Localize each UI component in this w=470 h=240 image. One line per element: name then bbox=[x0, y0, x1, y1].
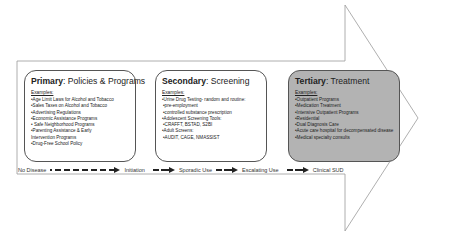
primary-examples-list: •Age Limit Laws for Alcohol and Tobacco … bbox=[31, 97, 129, 147]
secondary-prevention-box: Secondary: Screening Examples: •Urine Dr… bbox=[155, 70, 267, 162]
stage-sporadic-use: Sporadic Use bbox=[179, 167, 212, 173]
list-item: •Parenting Assistance & Early Interventi… bbox=[31, 128, 101, 141]
stage-initiation: Initiation bbox=[124, 167, 145, 173]
secondary-examples-list: •Urine Drug Testing- random and routine:… bbox=[162, 97, 260, 141]
secondary-title: Secondary: Screening bbox=[162, 76, 260, 87]
list-item: •AUDIT, CAGE, NMASSIST bbox=[162, 135, 260, 141]
disease-stage-timeline: No Disease Initiation Sporadic Use Escal… bbox=[18, 164, 344, 176]
dashed-arrow-icon bbox=[287, 167, 309, 173]
list-item: •Acute care hospital for decompensated d… bbox=[295, 128, 395, 134]
dashed-arrow-icon bbox=[50, 167, 120, 173]
stage-clinical-sud: Clinical SUD bbox=[313, 167, 344, 173]
primary-title: Primary: Policies & Programs bbox=[31, 76, 129, 87]
list-item: •Medical specialty consults bbox=[295, 135, 393, 141]
tertiary-examples-list: •Outpatient Programs •Medication Treatme… bbox=[295, 97, 393, 141]
tertiary-prevention-box: Tertiary: Treatment Examples: •Outpatien… bbox=[288, 70, 400, 162]
dashed-arrow-icon bbox=[153, 167, 175, 173]
stage-escalating-use: Escalating Use bbox=[242, 167, 279, 173]
secondary-examples-label: Examples: bbox=[162, 90, 260, 96]
primary-examples-label: Examples: bbox=[31, 90, 129, 96]
primary-prevention-box: Primary: Policies & Programs Examples: •… bbox=[24, 70, 136, 162]
stage-no-disease: No Disease bbox=[18, 167, 46, 173]
tertiary-title: Tertiary: Treatment bbox=[295, 76, 393, 87]
list-item: •Drug-Free School Policy bbox=[31, 141, 129, 147]
tertiary-examples-label: Examples: bbox=[295, 90, 393, 96]
dashed-arrow-icon bbox=[216, 167, 238, 173]
